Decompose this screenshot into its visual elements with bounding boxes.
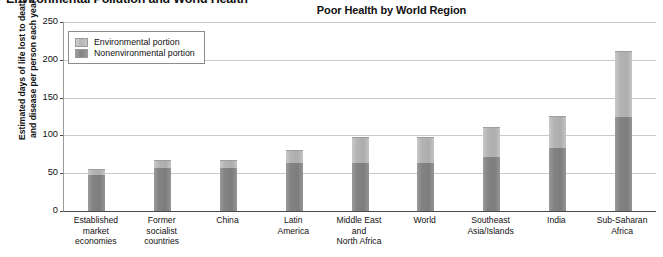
bar-segment-environmental [615,51,632,118]
bar-segment-environmental [286,150,303,163]
bar-segment-environmental [220,160,237,168]
x-axis-label-line: Africa [583,226,661,237]
gridline-150 [64,98,656,99]
legend-item-nonenvironmental[interactable]: Nonenvironmental portion [75,48,195,58]
y-tick-label-150: 150 [18,93,58,102]
legend-swatch-icon-nonenvironmental [75,49,88,58]
bar-segment-nonenvironmental [88,175,105,211]
y-tick-label-100: 100 [18,130,58,139]
legend-swatch-icon-environmental [75,38,88,47]
bar-segment-environmental [352,137,369,163]
chart-figure: Estimated days of life lost to death and… [0,0,663,257]
y-tick-label-0: 0 [18,206,58,215]
x-axis-label-line: socialist [123,226,201,237]
y-tick-label-50: 50 [18,168,58,177]
bar-segment-nonenvironmental [286,163,303,211]
bar-8[interactable] [549,116,566,211]
bar-segment-nonenvironmental [417,163,434,211]
bar-segment-nonenvironmental [352,163,369,211]
bar-5[interactable] [352,137,369,211]
x-axis-label-line: North Africa [320,236,398,247]
bar-1[interactable] [88,169,105,211]
x-axis-label-line: countries [123,236,201,247]
y-tick-label-200: 200 [18,55,58,64]
bar-4[interactable] [286,150,303,211]
bar-9[interactable] [615,51,632,211]
bar-segment-environmental [417,137,434,163]
bar-segment-nonenvironmental [483,157,500,211]
bar-7[interactable] [483,127,500,211]
chart-legend: Environmental portionNonenvironmental po… [68,31,205,64]
legend-item-environmental[interactable]: Environmental portion [75,37,195,47]
bar-segment-nonenvironmental [615,117,632,211]
bar-2[interactable] [154,160,171,211]
legend-label-environmental: Environmental portion [94,37,180,47]
bar-6[interactable] [417,137,434,211]
bar-segment-nonenvironmental [549,148,566,211]
legend-label-nonenvironmental: Nonenvironmental portion [94,48,195,58]
x-axis-label-line: and [320,226,398,237]
bar-segment-environmental [154,160,171,168]
x-axis-label-line: Sub-Saharan [583,215,661,226]
x-axis-label-9: Sub-SaharanAfrica [583,215,661,236]
gridline-250 [64,22,656,23]
bar-segment-environmental [549,116,566,149]
bar-segment-nonenvironmental [154,168,171,211]
y-tick-label-250: 250 [18,17,58,26]
bar-segment-environmental [483,127,500,156]
x-axis-label-line: Asia/Islands [452,226,530,237]
bar-3[interactable] [220,160,237,211]
bar-segment-nonenvironmental [220,168,237,211]
